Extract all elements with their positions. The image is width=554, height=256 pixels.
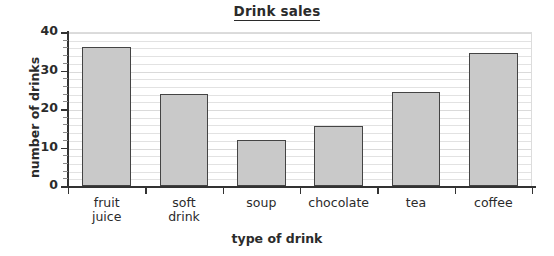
gridline — [68, 102, 531, 103]
gridline — [68, 141, 531, 142]
bar — [82, 47, 131, 186]
x-axis-tick — [68, 187, 69, 194]
chart-title-text: Drink sales — [234, 3, 321, 21]
y-axis-tick-minor — [63, 78, 68, 79]
y-axis-tick-minor — [63, 117, 68, 118]
y-axis-tick-major — [61, 148, 69, 150]
gridline — [68, 164, 531, 165]
y-axis-tick-minor — [63, 124, 68, 125]
y-axis-tick-label: 0 — [18, 179, 58, 192]
gridline — [68, 110, 531, 111]
chart-title: Drink sales — [0, 3, 554, 19]
y-axis-tick-major — [61, 71, 69, 73]
y-axis-tick-minor — [63, 40, 68, 41]
gridline — [68, 41, 531, 42]
gridline — [68, 33, 531, 34]
gridline — [68, 118, 531, 119]
y-axis-tick-minor — [63, 132, 68, 133]
y-axis-tick-label: 40 — [18, 25, 58, 38]
x-axis-title: type of drink — [0, 231, 554, 246]
gridline — [68, 48, 531, 49]
bar — [392, 92, 441, 186]
y-axis-tick-label: 30 — [18, 64, 58, 77]
gridline — [68, 64, 531, 65]
y-axis-tick-minor — [63, 94, 68, 95]
gridline — [68, 95, 531, 96]
y-axis-tick-major — [61, 32, 69, 34]
gridline — [68, 125, 531, 126]
gridline — [68, 179, 531, 180]
y-axis-tick-minor — [63, 163, 68, 164]
gridline — [68, 87, 531, 88]
y-axis-tick-minor — [63, 101, 68, 102]
gridline — [68, 56, 531, 57]
y-axis-tick-minor — [63, 140, 68, 141]
y-axis-tick-major — [61, 109, 69, 111]
x-axis-tick — [223, 187, 224, 194]
bar — [314, 126, 363, 186]
y-axis-tick-label: 20 — [18, 102, 58, 115]
plot-area — [68, 32, 532, 186]
x-axis-tick — [532, 187, 533, 194]
x-axis-tick-label: coffee — [455, 196, 532, 210]
y-axis-tick-minor — [63, 55, 68, 56]
x-axis-tick — [300, 187, 301, 194]
bar — [469, 53, 518, 186]
bar — [160, 94, 209, 186]
x-axis-tick-label: soup — [223, 196, 300, 210]
x-axis-line — [62, 186, 536, 188]
y-axis-tick-label: 10 — [18, 141, 58, 154]
x-axis-tick-label: fruit juice — [68, 196, 145, 224]
bar — [237, 140, 286, 186]
gridline — [68, 156, 531, 157]
y-axis-tick-minor — [63, 155, 68, 156]
gridline — [68, 133, 531, 134]
y-axis-tick-minor — [63, 86, 68, 87]
y-axis-title: number of drinks — [27, 38, 42, 198]
y-axis-tick-minor — [63, 178, 68, 179]
gridline — [68, 79, 531, 80]
x-axis-tick — [377, 187, 378, 194]
y-axis-tick-minor — [63, 63, 68, 64]
x-axis-tick — [455, 187, 456, 194]
x-axis-tick-label: soft drink — [145, 196, 222, 224]
gridline — [68, 172, 531, 173]
gridline — [68, 149, 531, 150]
y-axis-tick-minor — [63, 171, 68, 172]
x-axis-tick-label: tea — [377, 196, 454, 210]
y-axis-tick-minor — [63, 47, 68, 48]
x-axis-tick — [145, 187, 146, 194]
x-axis-tick-label: chocolate — [300, 196, 377, 210]
gridline — [68, 72, 531, 73]
bar-chart: Drink sales number of drinks type of dri… — [0, 0, 554, 256]
